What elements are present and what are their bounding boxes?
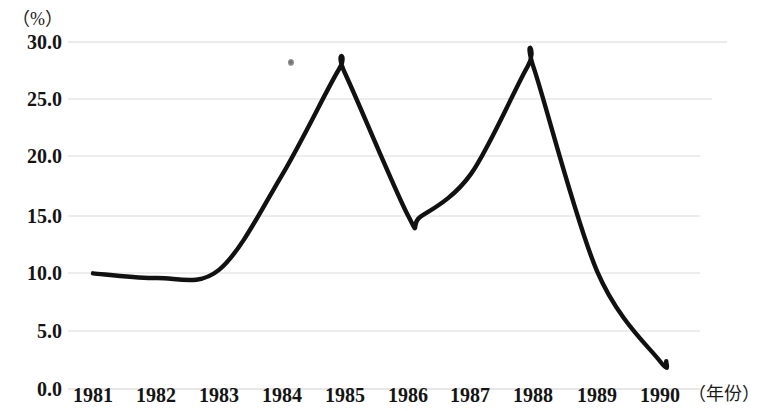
x-tick-label-1986: 1986 (388, 385, 428, 405)
x-tick-label-1981: 1981 (73, 385, 113, 405)
plot-area (0, 0, 759, 411)
gridlines (68, 42, 727, 389)
x-axis-title: （年份） (688, 385, 759, 403)
x-tick-label-1990: 1990 (640, 385, 680, 405)
scan-speck-artifact (288, 59, 294, 66)
x-tick-label-1988: 1988 (513, 385, 553, 405)
x-tick-label-1982: 1982 (136, 385, 176, 405)
x-tick-label-1984: 1984 (262, 385, 302, 405)
x-tick-label-1983: 1983 (199, 385, 239, 405)
data-series-line (93, 48, 667, 368)
line-chart: （%） 30.0 25.0 20.0 15.0 10.0 5.0 0.0 (0, 0, 759, 411)
x-tick-label-1985: 1985 (325, 385, 365, 405)
x-tick-label-1987: 1987 (450, 385, 490, 405)
x-tick-label-1989: 1989 (577, 385, 617, 405)
